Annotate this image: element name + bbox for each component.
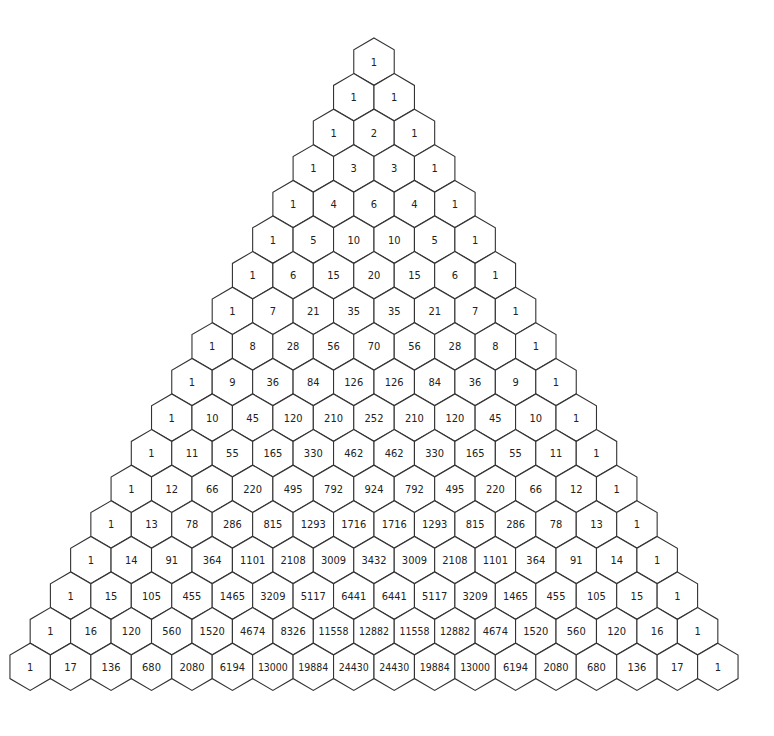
cell-value: 1 (47, 625, 53, 638)
cell-value: 24430 (339, 661, 369, 674)
cell-value: 55 (226, 447, 239, 460)
cell-value: 11558 (399, 625, 429, 638)
cell-value: 3432 (361, 554, 386, 567)
cell-value: 35 (347, 305, 360, 318)
cell-value: 13000 (258, 661, 288, 674)
cell-value: 1 (715, 661, 721, 674)
cell-value: 792 (405, 483, 424, 496)
cell-value: 8326 (281, 625, 306, 638)
cell-value: 126 (385, 376, 404, 389)
cell-value: 66 (530, 483, 543, 496)
cell-value: 364 (526, 554, 545, 567)
cell-value: 15 (408, 269, 421, 282)
cell-value: 126 (344, 376, 363, 389)
cell-value: 16 (85, 625, 98, 638)
cell-value: 1 (634, 518, 640, 531)
cell-value: 120 (284, 412, 303, 425)
cell-value: 13000 (460, 661, 490, 674)
cell-value: 5117 (301, 590, 326, 603)
cell-value: 120 (445, 412, 464, 425)
cell-value: 4 (330, 198, 336, 211)
cell-value: 1 (371, 56, 377, 69)
cell-value: 17 (64, 661, 77, 674)
cell-value: 1 (189, 376, 195, 389)
cell-value: 1 (614, 483, 620, 496)
cell-value: 120 (607, 625, 626, 638)
cell-value: 6 (290, 269, 296, 282)
cell-value: 78 (186, 518, 199, 531)
cell-value: 6441 (382, 590, 407, 603)
cell-value: 3 (391, 162, 397, 175)
cell-value: 20 (368, 269, 381, 282)
cell-value: 1101 (483, 554, 508, 567)
cell-value: 1 (492, 269, 498, 282)
cell-value: 1293 (301, 518, 326, 531)
cell-value: 5 (432, 234, 438, 247)
cell-value: 8 (492, 340, 498, 353)
number-triangle: 1111211331146411510105116152015611721353… (0, 0, 774, 736)
cell-value: 21 (307, 305, 320, 318)
cell-value: 680 (142, 661, 161, 674)
cell-value: 4674 (483, 625, 508, 638)
cell-value: 220 (486, 483, 505, 496)
cell-value: 6441 (341, 590, 366, 603)
cell-value: 1 (694, 625, 700, 638)
cell-value: 1 (250, 269, 256, 282)
cell-value: 210 (405, 412, 424, 425)
cell-value: 1716 (341, 518, 366, 531)
cell-value: 1 (654, 554, 660, 567)
cell-value: 4 (411, 198, 417, 211)
cell-value: 1520 (200, 625, 225, 638)
cell-value: 560 (567, 625, 586, 638)
cell-value: 3 (351, 162, 357, 175)
cell-value: 286 (223, 518, 242, 531)
triangle-row: 121 (313, 109, 434, 156)
cell-value: 1 (411, 127, 417, 140)
cell-value: 16 (651, 625, 664, 638)
cell-value: 91 (570, 554, 583, 567)
triangle-row: 1104512021025221012045101 (152, 394, 597, 441)
cell-value: 1 (452, 198, 458, 211)
cell-value: 455 (183, 590, 202, 603)
cell-value: 56 (408, 340, 421, 353)
triangle-row: 18285670562881 (192, 323, 556, 370)
cell-value: 14 (125, 554, 138, 567)
cell-value: 91 (165, 554, 178, 567)
cell-value: 11 (550, 447, 563, 460)
cell-value: 455 (547, 590, 566, 603)
cell-value: 1 (27, 661, 33, 674)
cell-value: 924 (365, 483, 384, 496)
cell-value: 286 (506, 518, 525, 531)
cell-value: 28 (287, 340, 300, 353)
cell-value: 462 (385, 447, 404, 460)
cell-value: 560 (162, 625, 181, 638)
cell-value: 792 (324, 483, 343, 496)
cell-value: 19884 (298, 661, 328, 674)
cell-value: 2080 (179, 661, 204, 674)
cell-value: 19884 (420, 661, 450, 674)
cell-value: 12 (570, 483, 583, 496)
hex-cells: 1111211331146411510105116152015611721353… (10, 38, 738, 690)
cell-value: 136 (627, 661, 646, 674)
cell-value: 36 (267, 376, 280, 389)
cell-value: 3009 (402, 554, 427, 567)
cell-value: 11 (186, 447, 199, 460)
cell-value: 21 (428, 305, 441, 318)
cell-value: 120 (122, 625, 141, 638)
cell-value: 136 (102, 661, 121, 674)
cell-value: 1 (128, 483, 134, 496)
cell-value: 6194 (220, 661, 245, 674)
cell-value: 1 (108, 518, 114, 531)
cell-value: 55 (509, 447, 522, 460)
cell-value: 1 (593, 447, 599, 460)
triangle-row: 1161205601520467483261155812882115581288… (30, 608, 718, 655)
cell-value: 15 (631, 590, 644, 603)
cell-value: 6194 (503, 661, 528, 674)
cell-value: 1465 (220, 590, 245, 603)
cell-value: 1 (573, 412, 579, 425)
cell-value: 1 (351, 91, 357, 104)
cell-value: 2080 (543, 661, 568, 674)
cell-value: 10 (347, 234, 360, 247)
cell-value: 5117 (422, 590, 447, 603)
cell-value: 1 (432, 162, 438, 175)
